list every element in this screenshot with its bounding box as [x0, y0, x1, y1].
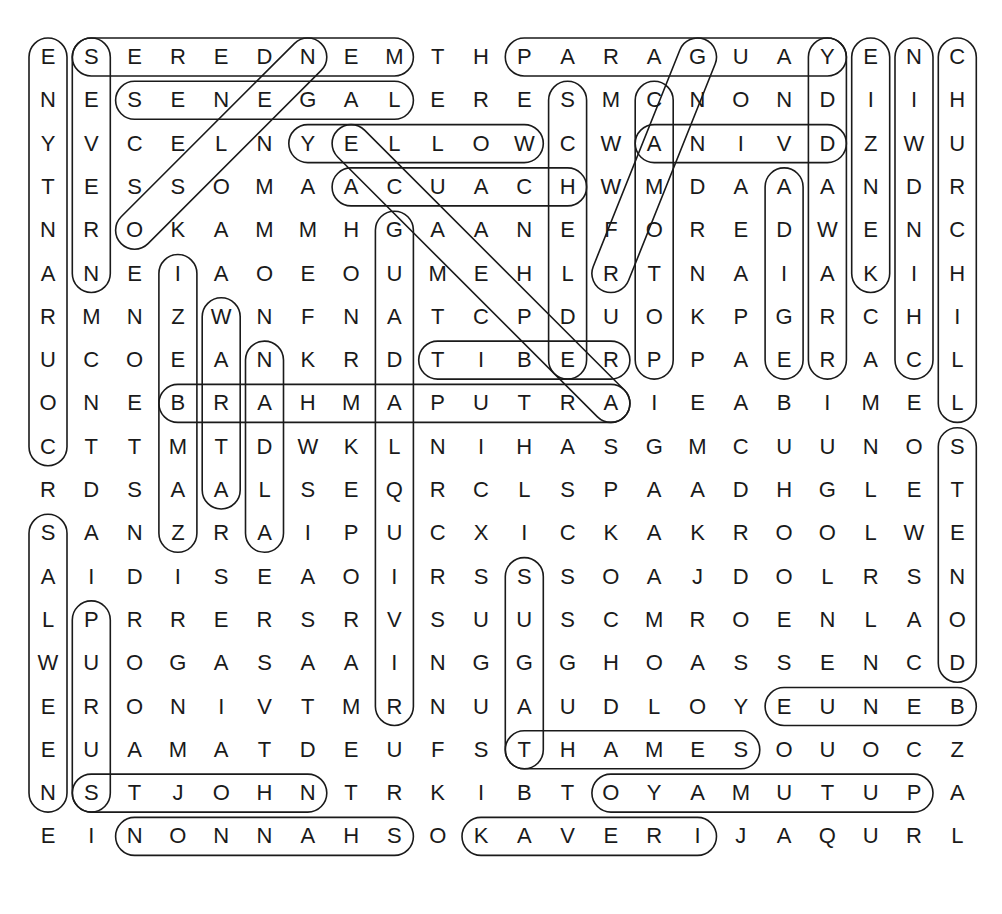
grid-cell[interactable]: N	[201, 80, 241, 120]
grid-cell[interactable]: Z	[937, 730, 977, 770]
grid-cell[interactable]: E	[764, 687, 804, 727]
grid-cell[interactable]: H	[331, 210, 371, 250]
grid-cell[interactable]: N	[807, 600, 847, 640]
grid-cell[interactable]: I	[461, 340, 501, 380]
grid-cell[interactable]: I	[461, 773, 501, 813]
grid-cell[interactable]: N	[504, 210, 544, 250]
grid-cell[interactable]: O	[764, 730, 804, 770]
grid-cell[interactable]: U	[71, 730, 111, 770]
grid-cell[interactable]: S	[504, 557, 544, 597]
grid-cell[interactable]: A	[245, 513, 285, 553]
grid-cell[interactable]: D	[245, 427, 285, 467]
grid-cell[interactable]: K	[678, 513, 718, 553]
grid-cell[interactable]: W	[591, 124, 631, 164]
grid-cell[interactable]: T	[504, 383, 544, 423]
grid-cell[interactable]: R	[634, 816, 674, 856]
grid-cell[interactable]: P	[504, 297, 544, 337]
grid-cell[interactable]: A	[201, 254, 241, 294]
grid-cell[interactable]: O	[201, 167, 241, 207]
grid-cell[interactable]: E	[331, 37, 371, 77]
grid-cell[interactable]: L	[28, 600, 68, 640]
grid-cell[interactable]: N	[28, 80, 68, 120]
grid-cell[interactable]: A	[807, 254, 847, 294]
grid-cell[interactable]: M	[634, 600, 674, 640]
grid-cell[interactable]: C	[634, 80, 674, 120]
grid-cell[interactable]: O	[764, 557, 804, 597]
grid-cell[interactable]: D	[548, 297, 588, 337]
grid-cell[interactable]: T	[807, 773, 847, 813]
grid-cell[interactable]: O	[158, 816, 198, 856]
grid-cell[interactable]: S	[937, 427, 977, 467]
grid-cell[interactable]: I	[374, 557, 414, 597]
grid-cell[interactable]: P	[71, 600, 111, 640]
grid-cell[interactable]: S	[764, 643, 804, 683]
grid-cell[interactable]: U	[851, 773, 891, 813]
grid-cell[interactable]: L	[851, 600, 891, 640]
grid-cell[interactable]: A	[201, 470, 241, 510]
grid-cell[interactable]: S	[374, 816, 414, 856]
grid-cell[interactable]: C	[461, 297, 501, 337]
grid-cell[interactable]: A	[288, 816, 328, 856]
grid-cell[interactable]: R	[678, 600, 718, 640]
grid-cell[interactable]: I	[71, 557, 111, 597]
grid-cell[interactable]: O	[115, 687, 155, 727]
grid-cell[interactable]: R	[851, 557, 891, 597]
grid-cell[interactable]: U	[504, 600, 544, 640]
grid-cell[interactable]: T	[548, 773, 588, 813]
grid-cell[interactable]: D	[721, 470, 761, 510]
grid-cell[interactable]: A	[678, 773, 718, 813]
grid-cell[interactable]: R	[678, 210, 718, 250]
grid-cell[interactable]: W	[28, 643, 68, 683]
grid-cell[interactable]: M	[245, 167, 285, 207]
grid-cell[interactable]: K	[461, 816, 501, 856]
grid-cell[interactable]: S	[115, 167, 155, 207]
grid-cell[interactable]: K	[331, 427, 371, 467]
grid-cell[interactable]: O	[807, 513, 847, 553]
grid-cell[interactable]: E	[851, 210, 891, 250]
grid-cell[interactable]: U	[807, 730, 847, 770]
grid-cell[interactable]: E	[28, 37, 68, 77]
grid-cell[interactable]: C	[548, 124, 588, 164]
grid-cell[interactable]: J	[678, 557, 718, 597]
grid-cell[interactable]: N	[678, 254, 718, 294]
grid-cell[interactable]: O	[721, 80, 761, 120]
grid-cell[interactable]: A	[634, 557, 674, 597]
grid-cell[interactable]: L	[201, 124, 241, 164]
grid-cell[interactable]: R	[461, 80, 501, 120]
grid-cell[interactable]: A	[764, 37, 804, 77]
grid-cell[interactable]: N	[245, 340, 285, 380]
grid-cell[interactable]: L	[807, 557, 847, 597]
grid-cell[interactable]: O	[28, 383, 68, 423]
grid-cell[interactable]: E	[894, 470, 934, 510]
grid-cell[interactable]: L	[937, 340, 977, 380]
grid-cell[interactable]: U	[71, 643, 111, 683]
grid-cell[interactable]: E	[245, 80, 285, 120]
grid-cell[interactable]: L	[504, 470, 544, 510]
grid-cell[interactable]: A	[245, 383, 285, 423]
grid-cell[interactable]: P	[418, 383, 458, 423]
grid-cell[interactable]: R	[548, 383, 588, 423]
grid-cell[interactable]: O	[115, 340, 155, 380]
grid-cell[interactable]: C	[374, 167, 414, 207]
grid-cell[interactable]: O	[418, 816, 458, 856]
grid-cell[interactable]: L	[418, 124, 458, 164]
grid-cell[interactable]: D	[288, 730, 328, 770]
grid-cell[interactable]: L	[548, 254, 588, 294]
grid-cell[interactable]: D	[374, 340, 414, 380]
grid-cell[interactable]: Z	[158, 297, 198, 337]
grid-cell[interactable]: T	[504, 730, 544, 770]
grid-cell[interactable]: G	[461, 643, 501, 683]
grid-cell[interactable]: T	[71, 427, 111, 467]
grid-cell[interactable]: R	[71, 687, 111, 727]
grid-cell[interactable]: I	[678, 816, 718, 856]
grid-cell[interactable]: D	[937, 643, 977, 683]
grid-cell[interactable]: A	[634, 470, 674, 510]
grid-cell[interactable]: A	[721, 383, 761, 423]
grid-cell[interactable]: C	[894, 643, 934, 683]
grid-cell[interactable]: R	[245, 600, 285, 640]
grid-cell[interactable]: O	[894, 427, 934, 467]
grid-cell[interactable]: A	[851, 340, 891, 380]
grid-cell[interactable]: Z	[851, 124, 891, 164]
grid-cell[interactable]: A	[288, 643, 328, 683]
grid-cell[interactable]: G	[634, 427, 674, 467]
